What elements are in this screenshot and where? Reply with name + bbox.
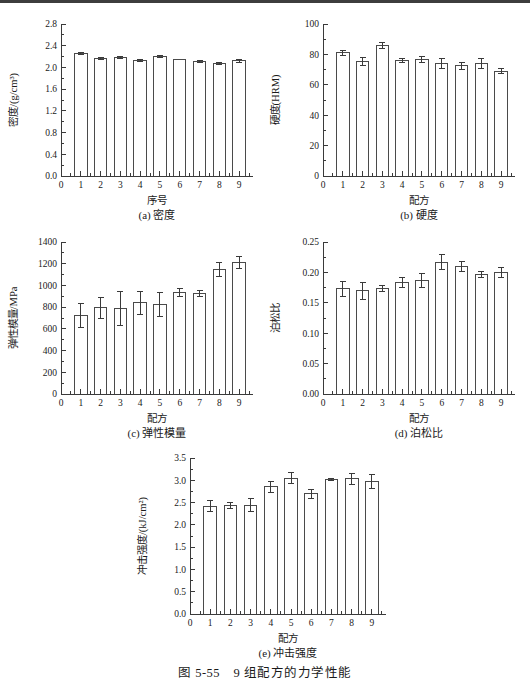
density-bar-chart: 0.00.40.81.21.62.02.42.80123456789序号密度/(… [5,12,263,208]
svg-text:3: 3 [118,180,123,190]
svg-text:3.0: 3.0 [174,476,186,486]
svg-text:0.4: 0.4 [45,150,57,160]
svg-text:1.5: 1.5 [174,542,186,552]
svg-text:100: 100 [305,19,320,29]
svg-text:0.25: 0.25 [302,237,319,247]
svg-text:60: 60 [310,80,320,90]
svg-text:1.2: 1.2 [45,106,57,116]
svg-text:3: 3 [380,180,385,190]
svg-text:6: 6 [177,180,182,190]
svg-text:0.05: 0.05 [302,359,319,369]
svg-text:泊松比: 泊松比 [269,303,281,333]
chart-impact-strength: 0.00.51.01.52.02.53.03.50123456789配方冲击强度… [134,446,396,661]
svg-text:0.8: 0.8 [45,128,57,138]
svg-text:2.8: 2.8 [45,19,57,29]
svg-text:1400: 1400 [38,237,57,247]
svg-text:600: 600 [43,324,58,334]
svg-text:3: 3 [118,398,123,408]
svg-text:0: 0 [188,618,193,628]
svg-text:80: 80 [310,50,320,60]
svg-text:6: 6 [439,180,444,190]
svg-text:1: 1 [208,618,213,628]
svg-text:配方: 配方 [278,632,298,644]
svg-text:2: 2 [360,180,365,190]
svg-text:4: 4 [400,398,405,408]
svg-text:2.0: 2.0 [45,63,57,73]
subcaption-density: (a) 密度 [5,208,263,223]
svg-text:800: 800 [43,302,58,312]
svg-text:7: 7 [459,180,464,190]
svg-text:0.0: 0.0 [174,609,186,619]
svg-text:1000: 1000 [38,281,57,291]
svg-text:2: 2 [98,398,103,408]
svg-text:0: 0 [52,389,57,399]
svg-text:3: 3 [380,398,385,408]
elastic-modulus-bar-chart: 02004006008001000120014000123456789配方弹性模… [5,230,263,426]
svg-text:5: 5 [158,398,163,408]
svg-text:5: 5 [420,398,425,408]
svg-text:配方: 配方 [409,194,429,206]
svg-text:0.00: 0.00 [302,389,319,399]
subcaption-hardness: (b) 硬度 [267,208,525,223]
svg-text:7: 7 [329,618,334,628]
chart-row-1: 0.00.40.81.21.62.02.42.80123456789序号密度/(… [0,12,530,223]
svg-text:2: 2 [228,618,233,628]
svg-text:0.0: 0.0 [45,171,57,181]
svg-text:0.5: 0.5 [174,587,186,597]
subcaption-elastic-modulus: (c) 弹性模量 [5,426,263,441]
svg-text:4: 4 [268,618,273,628]
svg-text:1: 1 [340,180,345,190]
svg-text:2.0: 2.0 [174,520,186,530]
svg-text:1: 1 [78,398,83,408]
svg-text:0: 0 [314,171,319,181]
svg-text:1200: 1200 [38,259,57,269]
svg-text:0: 0 [321,398,326,408]
charts-grid: 0.00.40.81.21.62.02.42.80123456789序号密度/(… [0,3,530,661]
svg-text:2.4: 2.4 [45,41,57,51]
svg-text:8: 8 [479,398,484,408]
svg-text:7: 7 [197,180,202,190]
svg-text:20: 20 [310,141,320,151]
svg-text:7: 7 [459,398,464,408]
chart-poisson-ratio: 0.000.050.100.150.200.250123456789配方泊松比 … [267,230,525,441]
subcaption-poisson-ratio: (d) 泊松比 [267,426,525,441]
svg-text:2.5: 2.5 [174,498,186,508]
svg-text:1: 1 [78,180,83,190]
svg-text:8: 8 [479,180,484,190]
svg-text:0: 0 [59,398,64,408]
svg-text:4: 4 [400,180,405,190]
svg-text:8: 8 [217,180,222,190]
svg-text:硬度(HRM): 硬度(HRM) [269,74,282,125]
impact-strength-bar-chart: 0.00.51.01.52.02.53.03.50123456789配方冲击强度… [134,446,396,646]
svg-text:9: 9 [237,398,242,408]
svg-text:3: 3 [248,618,253,628]
svg-text:9: 9 [237,180,242,190]
svg-text:9: 9 [499,398,504,408]
svg-text:5: 5 [289,618,294,628]
svg-text:400: 400 [43,346,58,356]
svg-text:8: 8 [349,618,354,628]
chart-row-2: 02004006008001000120014000123456789配方弹性模… [0,230,530,441]
svg-text:配方: 配方 [147,412,167,424]
svg-text:9: 9 [369,618,374,628]
svg-text:7: 7 [197,398,202,408]
svg-text:0.15: 0.15 [302,298,319,308]
subcaption-impact-strength: (e) 冲击强度 [134,646,396,661]
svg-text:0: 0 [59,180,64,190]
svg-text:1.0: 1.0 [174,565,186,575]
svg-text:配方: 配方 [409,412,429,424]
svg-text:6: 6 [439,398,444,408]
figure-page: 0.00.40.81.21.62.02.42.80123456789序号密度/(… [0,0,530,692]
svg-text:200: 200 [43,368,58,378]
svg-text:4: 4 [138,180,143,190]
hardness-bar-chart: 0204060801000123456789配方硬度(HRM) [267,12,525,208]
svg-text:6: 6 [177,398,182,408]
svg-text:0: 0 [321,180,326,190]
chart-elastic-modulus: 02004006008001000120014000123456789配方弹性模… [5,230,263,441]
chart-hardness: 0204060801000123456789配方硬度(HRM) (b) 硬度 [267,12,525,223]
svg-text:冲击强度/(kJ/cm²): 冲击强度/(kJ/cm²) [136,496,149,575]
svg-text:弹性模量/MPa: 弹性模量/MPa [7,286,19,349]
svg-text:密度/(g/cm³): 密度/(g/cm³) [7,72,20,127]
svg-text:40: 40 [310,111,320,121]
svg-text:4: 4 [138,398,143,408]
